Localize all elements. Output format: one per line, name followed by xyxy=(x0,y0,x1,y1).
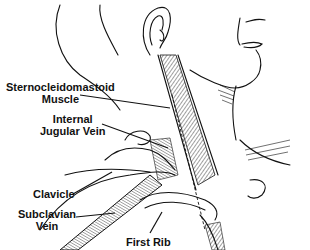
label-sternocleidomastoid: Sternocleidomastoid Muscle xyxy=(6,81,115,105)
label-internal-jugular-vein: Internal Jugular Vein xyxy=(40,113,105,137)
face-profile xyxy=(190,18,265,140)
leader-first-rib xyxy=(150,212,162,233)
ear-outline xyxy=(143,7,170,55)
leader-clavicle xyxy=(73,172,112,194)
label-subclavian-vein: Subclavian Vein xyxy=(18,208,76,232)
label-first-rib: First Rib xyxy=(126,236,171,248)
leader-ijv xyxy=(102,124,168,148)
anatomy-illustration: Sternocleidomastoid Muscle Internal Jugu… xyxy=(0,0,310,250)
label-clavicle: Clavicle xyxy=(33,188,75,200)
